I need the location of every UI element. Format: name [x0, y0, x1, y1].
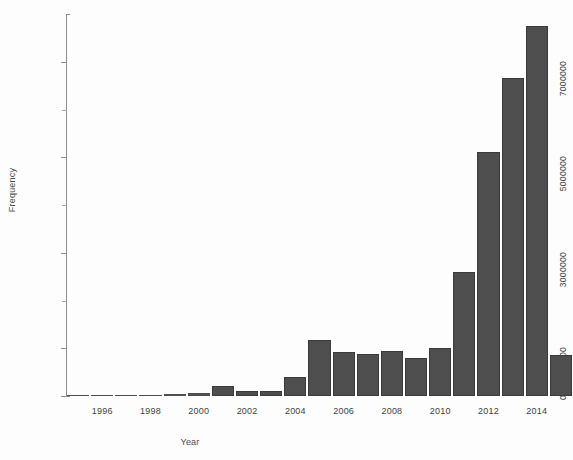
y-axis-minor-tick [62, 205, 67, 206]
bar [308, 340, 330, 396]
y-axis-tick-label: 3000000 [558, 252, 568, 287]
y-axis-cap-top [66, 14, 70, 15]
bar [333, 352, 355, 396]
x-axis-tick-label: 2010 [430, 406, 451, 416]
bar [284, 377, 306, 396]
bar [477, 152, 499, 396]
x-axis-tick-label: 2008 [382, 406, 403, 416]
x-axis-tick-label: 2006 [333, 406, 354, 416]
y-axis-title: Frequency [7, 155, 17, 225]
x-axis-tick-label: 2004 [285, 406, 306, 416]
x-axis-tick-label: 2014 [526, 406, 547, 416]
bar [212, 386, 234, 396]
bar [453, 272, 475, 396]
y-axis-tick-label: 7000000 [558, 61, 568, 96]
y-axis-tick-label: 5000000 [558, 156, 568, 191]
bar [381, 351, 403, 396]
x-axis-tick-label: 2012 [478, 406, 499, 416]
bar-chart: Frequency Year 0100000030000005000000700… [0, 0, 573, 460]
x-axis-tick-label: 1998 [140, 406, 161, 416]
x-axis-tick-label: 2000 [188, 406, 209, 416]
y-axis-tick [61, 253, 67, 254]
y-axis-tick [61, 348, 67, 349]
bar [526, 26, 548, 396]
y-axis-minor-tick [62, 110, 67, 111]
x-axis-tick-label: 2002 [237, 406, 258, 416]
bar [405, 358, 427, 396]
bar [502, 78, 524, 396]
y-axis-minor-tick [62, 301, 67, 302]
x-axis-tick-label: 1996 [92, 406, 113, 416]
bar [550, 355, 572, 396]
x-axis-title: Year [0, 437, 380, 447]
y-axis-tick [61, 62, 67, 63]
y-axis-tick [61, 157, 67, 158]
bar [429, 348, 451, 396]
plot-area: 01000000300000050000007000000 1996199820… [66, 14, 573, 396]
bar [357, 354, 379, 396]
x-axis-line [67, 396, 573, 397]
